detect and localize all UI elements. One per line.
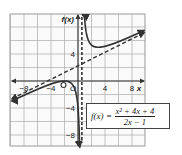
formula-box: f(x) = x² + 4x + 4 2x − 1 xyxy=(86,103,170,129)
formula-denominator: 2x − 1 xyxy=(124,117,146,127)
svg-text:x: x xyxy=(136,84,142,93)
svg-text:4: 4 xyxy=(103,84,108,93)
formula-fraction: x² + 4x + 4 2x − 1 xyxy=(115,106,156,127)
formula-numerator: x² + 4x + 4 xyxy=(115,106,156,117)
graph: −8−4484−4−8xf(x)O xyxy=(0,0,182,155)
formula-equals: = xyxy=(107,111,112,121)
svg-text:−4: −4 xyxy=(46,84,56,93)
formula-lhs: f(x) xyxy=(91,111,104,121)
svg-text:−8: −8 xyxy=(19,84,29,93)
svg-text:f(x): f(x) xyxy=(62,15,75,24)
svg-text:8: 8 xyxy=(130,84,135,93)
svg-text:−4: −4 xyxy=(66,104,76,113)
svg-text:−8: −8 xyxy=(66,131,76,140)
svg-text:4: 4 xyxy=(71,50,76,59)
svg-text:O: O xyxy=(70,84,76,93)
